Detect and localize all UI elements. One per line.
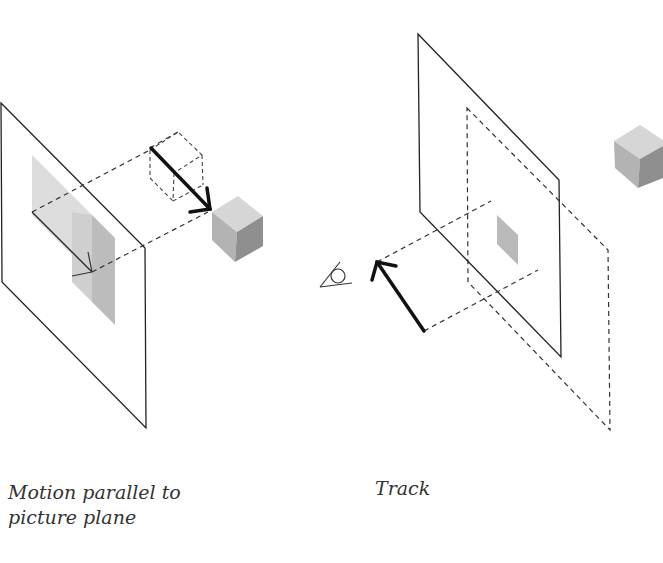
picture-plane-right (418, 34, 561, 357)
right-panel (320, 34, 663, 430)
shaded-cube-right (614, 125, 663, 188)
dashed-projection-lines-right (377, 201, 538, 331)
shaded-cube-left (212, 196, 263, 262)
dashed-displaced-plane (467, 108, 610, 430)
eye-icon (320, 262, 352, 287)
bold-motion-arrow-left (151, 148, 210, 212)
caption-left: Motion parallel to picture plane (8, 480, 228, 530)
left-panel (1, 103, 263, 428)
caption-right: Track (375, 476, 430, 501)
diagram-figure (0, 0, 663, 563)
projected-image-smear (32, 155, 115, 325)
caption-left-line2: picture plane (8, 505, 228, 530)
small-projected-square (497, 215, 518, 265)
bold-motion-arrow-right (372, 262, 424, 331)
caption-left-line1: Motion parallel to (8, 480, 228, 505)
dashed-ghost-cube (150, 132, 203, 201)
